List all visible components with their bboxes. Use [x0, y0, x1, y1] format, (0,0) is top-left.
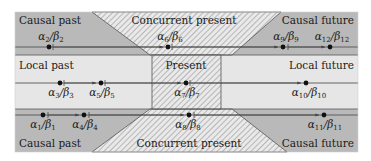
event-dot-3: [58, 81, 63, 86]
event-dot-2: [47, 45, 52, 50]
label-bottom-causal-past: Causal past: [19, 137, 82, 149]
event-dot-5: [99, 81, 104, 86]
event-dot-12: [328, 45, 333, 50]
label-top-concurrent-present: Concurrent present: [132, 14, 238, 26]
label-present: Present: [166, 59, 208, 71]
event-dot-9: [281, 45, 286, 50]
event-dot-10: [304, 81, 309, 86]
label-top-causal-future: Causal future: [282, 14, 354, 26]
event-dot-8: [187, 113, 192, 118]
causality-diagram: Causal past Concurrent present Causal fu…: [0, 0, 371, 161]
label-local-future: Local future: [289, 59, 354, 71]
event-dot-1: [41, 113, 46, 118]
label-bottom-concurrent-present: Concurrent present: [137, 137, 243, 149]
event-dot-7: [184, 81, 189, 86]
event-dot-4: [82, 113, 87, 118]
label-bottom-causal-future: Causal future: [282, 137, 354, 149]
event-dot-11: [322, 113, 327, 118]
label-local-past: Local past: [19, 59, 75, 71]
event-dot-6: [166, 45, 171, 50]
label-top-causal-past: Causal past: [19, 14, 82, 26]
